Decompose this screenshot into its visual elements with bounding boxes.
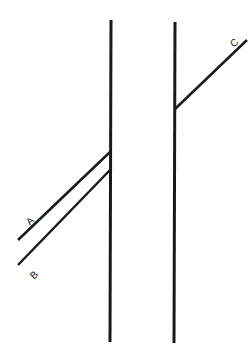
left-vertical — [110, 20, 111, 342]
poggendorff-diagram: A B C — [0, 0, 252, 354]
label-b: B — [28, 268, 41, 281]
line-c — [175, 40, 247, 109]
line-b — [18, 170, 110, 265]
line-a — [18, 152, 110, 240]
right-vertical — [174, 22, 175, 343]
